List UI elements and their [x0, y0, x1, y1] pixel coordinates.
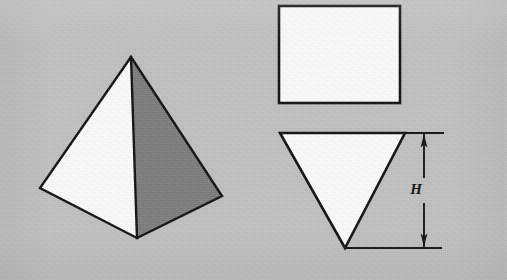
plan-view-rectangle [279, 6, 400, 103]
height-dimension-label: H [408, 182, 424, 197]
elevation-view-triangle [280, 133, 405, 248]
elevation-view-triangle-shape [280, 133, 405, 248]
pyramid-right-face [131, 57, 222, 238]
pyramid-pictorial-view [40, 57, 222, 238]
geometry-figure-svg [0, 0, 507, 280]
pyramid-left-face [40, 57, 137, 238]
figure-root: H [0, 0, 507, 280]
plan-view-rectangle-shape [279, 6, 400, 103]
